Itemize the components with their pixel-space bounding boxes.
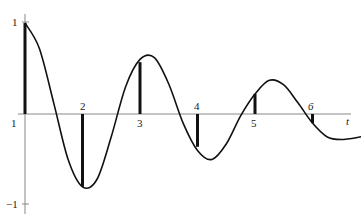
stems [25, 23, 313, 187]
x-label-3: 3 [137, 117, 143, 129]
x-label-6: 6 [308, 100, 314, 112]
y-label-1: 1 [12, 16, 18, 28]
y-label-minus1: −1 [6, 198, 18, 210]
damped-oscillation-chart: 1 −1 1 2 3 4 5 6 t [0, 0, 361, 224]
x-axis-label-t: t [346, 115, 350, 127]
x-label-2: 2 [80, 100, 86, 112]
x-label-4: 4 [194, 100, 200, 112]
x-label-1: 1 [11, 117, 17, 129]
tick-labels: 1 −1 1 2 3 4 5 6 t [6, 16, 350, 210]
x-label-5: 5 [251, 117, 257, 129]
axes [18, 14, 351, 214]
